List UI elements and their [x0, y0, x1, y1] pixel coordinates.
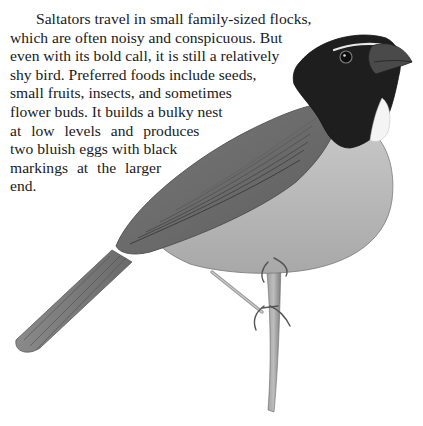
paragraph-line: end.: [10, 177, 36, 196]
paragraph-line: even with its bold call, it is still a r…: [10, 47, 279, 66]
eye: [340, 51, 352, 63]
paragraph-line: two bluish eggs with black: [10, 140, 177, 159]
paragraph-line: Saltators travel in small family-sized f…: [36, 10, 311, 29]
paragraph-line: small fruits, insects, and sometimes: [10, 84, 232, 103]
paragraph-line: shy bird. Preferred foods include seeds,: [10, 66, 256, 85]
book-page: Saltators travel in small family-sized f…: [0, 0, 423, 426]
bird-tail: [16, 250, 132, 352]
paragraph-line: which are often noisy and conspicuous. B…: [10, 29, 282, 48]
paragraph-line: flower buds. It builds a bulky nest: [10, 103, 223, 122]
twig: [212, 262, 281, 412]
paragraph-line: at low levels and produces: [10, 122, 199, 141]
beak: [369, 44, 412, 74]
paragraph-line: markings at the larger: [10, 159, 161, 178]
